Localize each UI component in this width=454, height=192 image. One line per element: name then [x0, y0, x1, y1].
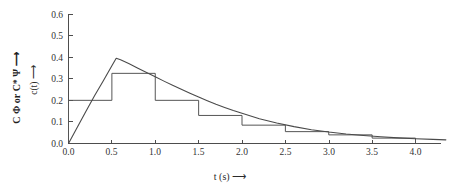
series-step-histogram — [69, 73, 416, 143]
x-tick-label: 2.0 — [236, 147, 248, 157]
y-tick-label: 0.3 — [51, 74, 63, 84]
chart-plot-area: C Φ or C* Ψ ⟶ c(t) ⟶ 0.6 0.5 0.4 0.3 0.2… — [0, 0, 454, 192]
y-tick-label: 0.5 — [51, 31, 63, 41]
y-tick-label: 0.1 — [51, 117, 63, 127]
chart-figure: C Φ or C* Ψ ⟶ c(t) ⟶ 0.6 0.5 0.4 0.3 0.2… — [0, 0, 454, 192]
x-tick-label: 1.0 — [149, 147, 161, 157]
y-tick-label: 0.6 — [51, 10, 63, 20]
y-tick-label: 0.0 — [51, 139, 63, 149]
x-tick-label: 0.5 — [106, 147, 118, 157]
x-axis-label: t (s) ⟶ — [214, 171, 246, 183]
x-tick-label: 1.5 — [193, 147, 205, 157]
y-axis-outer-label: C Φ or C* Ψ ⟶ — [11, 51, 22, 123]
x-tick-label: 3.5 — [366, 147, 378, 157]
y-tick-label: 0.4 — [51, 53, 63, 63]
series-smooth-curve — [69, 58, 446, 143]
x-tick-label: 3.0 — [323, 147, 335, 157]
x-tick-label: 4.0 — [410, 147, 422, 157]
x-tick-label: 0.0 — [63, 147, 75, 157]
y-axis-label: c(t) ⟶ — [29, 65, 40, 95]
x-tick-label: 2.5 — [280, 147, 292, 157]
y-tick-label: 0.2 — [51, 96, 63, 106]
